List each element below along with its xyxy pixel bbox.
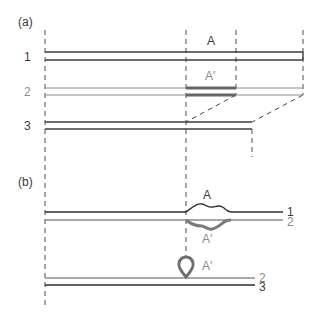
row-2-highlight-segment <box>186 88 236 95</box>
row-2-label: 2 <box>24 86 31 98</box>
b-strand-2-label: 2 <box>287 216 294 228</box>
panel-a-label: (a) <box>18 16 33 28</box>
row-3-duplex <box>45 122 252 129</box>
segment-a-prime-label: A′ <box>205 70 215 82</box>
panel-b-label: (b) <box>18 176 33 188</box>
diagonal-guide-left <box>186 95 236 122</box>
b-strand-1 <box>45 204 283 212</box>
b-bottom-strand-3-label: 3 <box>259 281 266 293</box>
row-1-label: 1 <box>24 51 31 63</box>
row-3-label: 3 <box>24 120 31 132</box>
b-loop-a-prime <box>179 257 193 277</box>
row-1-duplex <box>45 52 303 60</box>
bubble-a-prime-label: A′ <box>202 233 212 245</box>
row-2-duplex <box>45 88 303 95</box>
b-strand-2-bulge <box>186 220 231 229</box>
diagram-canvas: (a) 1 2 3 A A′ (b) A A′ 1 2 A′ 2 3 <box>0 0 319 315</box>
diagram-graphics <box>0 0 319 315</box>
loop-a-prime-label: A′ <box>202 260 212 272</box>
diagonal-guide-right <box>252 95 303 122</box>
bubble-a-label: A <box>203 189 211 201</box>
segment-a-label: A <box>207 35 215 47</box>
